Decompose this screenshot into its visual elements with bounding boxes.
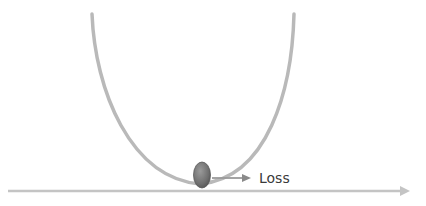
pointer-arrowhead-icon [242, 174, 251, 182]
ball [194, 162, 211, 188]
loss-diagram: Loss [0, 0, 426, 206]
loss-curve [92, 14, 294, 184]
horizontal-axis [8, 186, 410, 196]
loss-label: Loss [259, 170, 290, 186]
axis-arrowhead-icon [400, 186, 410, 196]
